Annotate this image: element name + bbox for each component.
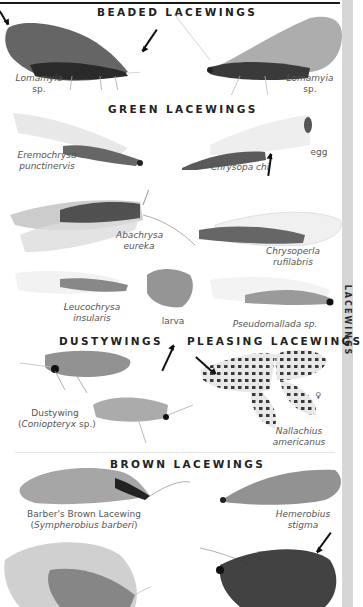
heading-pleasing-lacewings: PLEASING LACEWINGS [187, 335, 363, 347]
label-sympherobius: Barber's Brown Lacewing (Sympherobius ba… [20, 509, 148, 531]
abachrysa-image [5, 190, 195, 260]
pseudomallada-image [205, 270, 340, 315]
sympherobius-image [15, 468, 190, 508]
hemerobius-stigma-image-1 [215, 468, 345, 508]
label-egg: egg [306, 147, 332, 158]
label-eremochrysa: Eremochrysa punctinervis [12, 150, 82, 172]
side-tab-label: LACEWINGS [342, 270, 354, 370]
hemerobius-stigma-image-2 [200, 540, 340, 607]
label-lomamyia-right: Lomamyia sp. [285, 73, 335, 95]
arrow-icon [142, 29, 158, 51]
label-hemerobius: Hemerobius stigma [274, 509, 332, 531]
chrysopa-chi-image [180, 110, 315, 170]
nallachius-image [195, 350, 330, 430]
sympherobius-image-2 [0, 540, 150, 607]
top-rule [0, 2, 340, 4]
label-leucochrysa: Leucochrysa insularis [62, 302, 122, 324]
label-pseudomallada: Pseudomallada sp. [232, 319, 318, 330]
label-lomamyia-left: Lomamyia sp. [10, 73, 68, 95]
egg-image [302, 115, 314, 135]
female-symbol: ♀ [312, 390, 324, 401]
dustywing-image-2 [88, 393, 198, 448]
arrow-icon [161, 345, 174, 371]
dustywing-image-1 [15, 345, 135, 395]
label-larva: larva [158, 316, 188, 327]
divider [15, 452, 335, 453]
larva-image [142, 265, 197, 310]
label-abachrysa: Abachrysa eureka [116, 230, 162, 252]
label-dustywing: Dustywing (Coniopteryx sp.) [18, 408, 92, 430]
leucochrysa-image [10, 265, 130, 305]
label-chrysoperla: Chrysoperla rufilabris [262, 246, 324, 268]
label-nallachius: Nallachius americanus [266, 426, 332, 448]
label-chrysopa-chi: Chrysopa chi [205, 162, 275, 173]
